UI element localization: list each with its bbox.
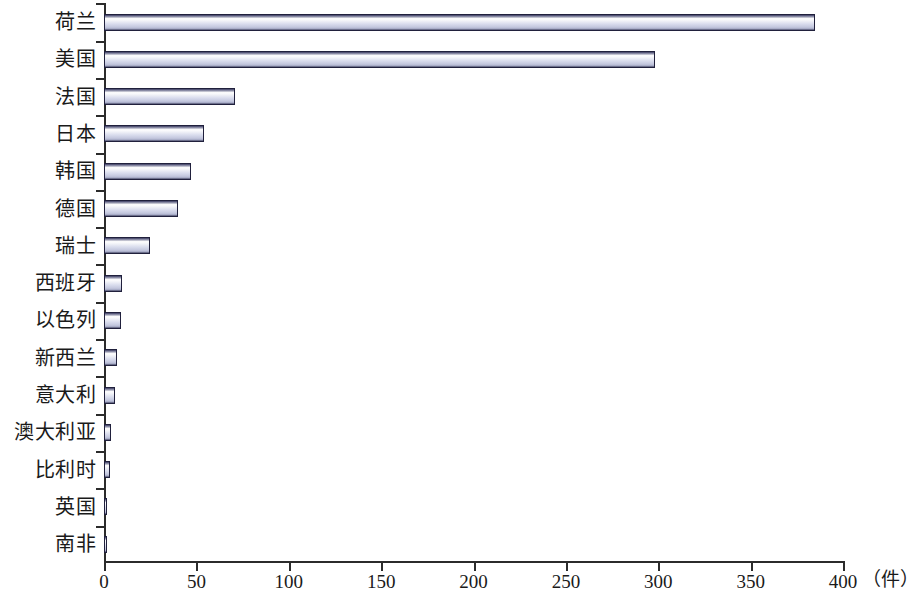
x-axis-tick (751, 563, 753, 571)
y-axis-tick (96, 41, 104, 43)
category-label: 法国 (55, 87, 96, 107)
y-axis-tick (96, 376, 104, 378)
x-axis-unit-label: （件） (862, 570, 919, 589)
y-axis-tick (96, 3, 104, 5)
category-label: 英国 (55, 497, 96, 517)
y-axis-tick (96, 153, 104, 155)
category-label: 意大利 (35, 385, 97, 405)
bar (104, 349, 117, 366)
bar (104, 424, 111, 441)
x-axis-tick (104, 563, 106, 571)
category-label: 瑞士 (55, 236, 96, 256)
category-label: 美国 (55, 49, 96, 69)
bar (104, 14, 815, 31)
category-label: 荷兰 (55, 12, 96, 32)
x-axis-tick-label: 100 (275, 572, 304, 591)
y-axis-tick (96, 264, 104, 266)
bar (104, 163, 191, 180)
category-label: 以色列 (35, 310, 97, 330)
y-axis-tick (96, 115, 104, 117)
bar (104, 312, 121, 329)
x-axis-tick-label: 200 (459, 572, 488, 591)
category-label: 日本 (55, 124, 96, 144)
y-axis-tick (96, 78, 104, 80)
x-axis-tick-label: 400 (829, 572, 858, 591)
x-axis-tick-label: 50 (187, 572, 206, 591)
x-axis-tick (474, 563, 476, 571)
x-axis-tick-label: 0 (99, 572, 109, 591)
y-axis-tick (96, 302, 104, 304)
category-axis-labels: 荷兰美国法国日本韩国德国瑞士西班牙以色列新西兰意大利澳大利亚比利时英国南非 (0, 0, 96, 593)
bar (104, 200, 178, 217)
x-axis-tick (381, 563, 383, 571)
bar (104, 51, 655, 68)
bar (104, 237, 150, 254)
y-axis-tick (96, 339, 104, 341)
category-label: 南非 (55, 534, 96, 554)
y-axis-tick (96, 488, 104, 490)
category-label: 西班牙 (35, 273, 97, 293)
x-axis-tick (289, 563, 291, 571)
x-axis-tick (566, 563, 568, 571)
x-axis-tick (658, 563, 660, 571)
x-axis-tick-label: 250 (552, 572, 581, 591)
y-axis-tick (96, 451, 104, 453)
category-label: 澳大利亚 (14, 422, 96, 442)
y-axis-tick (96, 190, 104, 192)
bar (104, 275, 122, 292)
x-axis-tick (196, 563, 198, 571)
bar (104, 387, 115, 404)
category-label: 德国 (55, 199, 96, 219)
bar (104, 498, 107, 515)
y-axis-tick (96, 414, 104, 416)
x-axis-tick (843, 563, 845, 571)
bar (104, 536, 107, 553)
bar (104, 125, 204, 142)
plot-area (104, 3, 914, 562)
x-axis-tick-label: 350 (736, 572, 765, 591)
y-axis-tick (96, 526, 104, 528)
category-label: 韩国 (55, 161, 96, 181)
x-axis-tick-label: 150 (367, 572, 396, 591)
category-label: 比利时 (35, 460, 97, 480)
x-axis-tick-label: 300 (644, 572, 673, 591)
category-label: 新西兰 (35, 348, 97, 368)
bar (104, 88, 235, 105)
bar-chart: 荷兰美国法国日本韩国德国瑞士西班牙以色列新西兰意大利澳大利亚比利时英国南非 05… (0, 0, 920, 593)
bar (104, 461, 110, 478)
y-axis-tick (96, 227, 104, 229)
